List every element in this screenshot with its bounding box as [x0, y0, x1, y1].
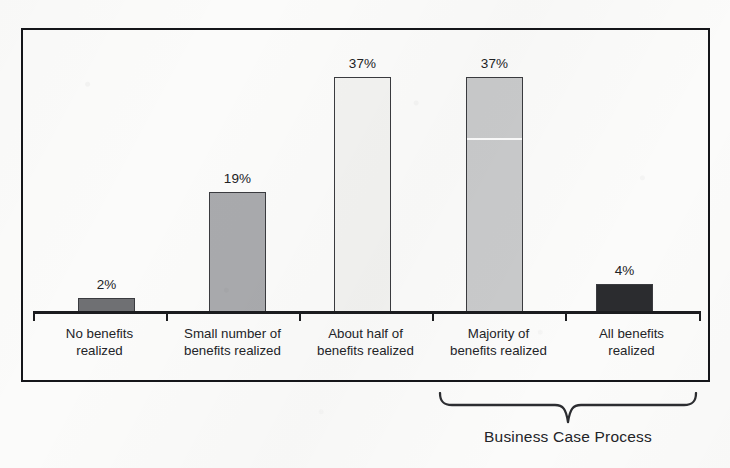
category-label-line2: benefits realized: [432, 342, 565, 359]
bar-no-benefits-realized[interactable]: [78, 298, 135, 312]
bar-all-benefits-realized[interactable]: [596, 284, 653, 312]
brace-label: Business Case Process: [437, 428, 699, 446]
scan-streak: [467, 138, 522, 140]
bar-small-number-of-benefits-realized[interactable]: [209, 192, 266, 312]
bar-about-half-of-benefits-realized[interactable]: [334, 77, 391, 312]
category-label-line1: Majority of: [432, 325, 565, 342]
value-label-no-benefits-realized: 2%: [78, 277, 135, 292]
category-label-majority-of-benefits-realized: Majority of benefits realized: [432, 325, 565, 359]
category-label-line1: About half of: [299, 325, 432, 342]
category-label-line2: benefits realized: [166, 342, 299, 359]
axis-tick-2: [299, 313, 301, 321]
plot-area: 2% 19% 37% 37% 4% No benefits realized S…: [21, 28, 710, 382]
category-label-line2: realized: [565, 342, 698, 359]
value-label-about-half-of-benefits-realized: 37%: [334, 56, 391, 71]
category-label-line1: Small number of: [166, 325, 299, 342]
axis-tick-1: [166, 313, 168, 321]
category-label-line1: All benefits: [565, 325, 698, 342]
axis-tick-5: [699, 313, 701, 321]
axis-tick-4: [565, 313, 567, 321]
value-label-majority-of-benefits-realized: 37%: [466, 56, 523, 71]
category-label-line1: No benefits: [33, 325, 166, 342]
category-label-line2: realized: [33, 342, 166, 359]
category-label-about-half-of-benefits-realized: About half of benefits realized: [299, 325, 432, 359]
category-label-no-benefits-realized: No benefits realized: [33, 325, 166, 359]
value-label-small-number-of-benefits-realized: 19%: [209, 171, 266, 186]
axis-tick-0: [33, 313, 35, 321]
x-axis-line: [33, 311, 701, 314]
axis-tick-3: [432, 313, 434, 321]
bar-majority-of-benefits-realized[interactable]: [466, 77, 523, 312]
category-label-line2: benefits realized: [299, 342, 432, 359]
category-label-small-number-of-benefits-realized: Small number of benefits realized: [166, 325, 299, 359]
curly-brace-icon: [437, 392, 699, 426]
category-label-all-benefits-realized: All benefits realized: [565, 325, 698, 359]
chart-page: 2% 19% 37% 37% 4% No benefits realized S…: [0, 0, 730, 468]
value-label-all-benefits-realized: 4%: [596, 263, 653, 278]
brace-annotation: [437, 392, 699, 426]
